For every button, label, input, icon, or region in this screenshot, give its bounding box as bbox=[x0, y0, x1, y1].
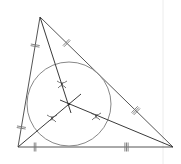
triangle-side-right bbox=[40, 17, 173, 147]
arc-stroke bbox=[48, 120, 56, 123]
arc-stroke bbox=[57, 81, 67, 83]
construction-arcs bbox=[47, 81, 101, 122]
arc-stroke bbox=[92, 118, 100, 121]
angle-bisectors bbox=[18, 17, 173, 147]
arc-intersection bbox=[95, 115, 97, 117]
arc-mark bbox=[57, 81, 67, 88]
arc-intersection bbox=[51, 117, 53, 119]
incenter-point bbox=[68, 103, 70, 105]
arc-intersection bbox=[61, 83, 63, 85]
triangle-diagram bbox=[0, 0, 181, 164]
bisector-from-top bbox=[40, 17, 71, 113]
equal-length-ticks bbox=[17, 39, 140, 151]
triangle-side-left bbox=[18, 17, 40, 147]
bisector-from-bottom-right bbox=[60, 100, 173, 147]
arc-mark bbox=[47, 115, 57, 122]
